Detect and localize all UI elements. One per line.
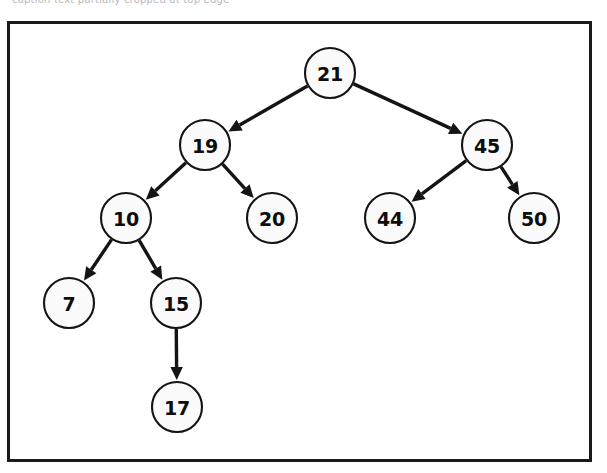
tree-node-17[interactable]: 17 (152, 382, 202, 432)
tree-node-label-21: 21 (317, 63, 343, 85)
tree-node-label-50: 50 (521, 208, 547, 230)
edge-arrowhead-15-to-17 (170, 367, 182, 380)
tree-node-label-15: 15 (163, 293, 189, 315)
tree-edge-21-to-45 (354, 84, 451, 128)
tree-edge-45-to-44 (422, 161, 466, 194)
tree-edges-layer (84, 84, 519, 380)
tree-edge-45-to-50 (501, 167, 512, 185)
tree-node-label-44: 44 (377, 208, 403, 230)
tree-node-label-17: 17 (164, 397, 190, 419)
figure-root: caption text partially cropped at top ed… (0, 0, 607, 473)
tree-node-label-19: 19 (192, 135, 218, 157)
tree-edge-19-to-20 (223, 164, 245, 188)
tree-node-7[interactable]: 7 (44, 278, 94, 328)
tree-node-label-20: 20 (259, 208, 285, 230)
tree-node-10[interactable]: 10 (101, 193, 151, 243)
tree-node-label-10: 10 (113, 208, 139, 230)
tree-edge-19-to-10 (155, 163, 186, 191)
tree-node-45[interactable]: 45 (462, 120, 512, 170)
tree-node-19[interactable]: 19 (180, 120, 230, 170)
tree-nodes-layer: 2119451020445071517 (44, 48, 559, 432)
tree-edge-10-to-7 (91, 240, 111, 270)
tree-node-50[interactable]: 50 (509, 193, 559, 243)
tree-node-20[interactable]: 20 (247, 193, 297, 243)
tree-node-21[interactable]: 21 (305, 48, 355, 98)
tree-node-15[interactable]: 15 (151, 278, 201, 328)
tree-node-44[interactable]: 44 (365, 193, 415, 243)
tree-node-label-7: 7 (63, 293, 76, 315)
tree-node-label-45: 45 (474, 135, 500, 157)
tree-edge-10-to-15 (139, 240, 156, 268)
tree-edge-21-to-19 (240, 86, 308, 125)
binary-search-tree-canvas: 2119451020445071517 (0, 0, 607, 473)
